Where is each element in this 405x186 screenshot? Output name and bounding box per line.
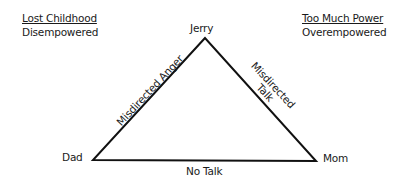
node-jerry-label: Jerry [190,22,213,34]
annotation-right-heading: Too Much Power [302,12,383,24]
node-mom-label: Mom [323,152,348,164]
annotation-left-heading: Lost Childhood [22,12,97,24]
node-dad-label: Dad [62,151,83,163]
annotation-left-subheading: Disempowered [22,26,98,38]
annotation-right-subheading: Overempowered [302,26,386,38]
edge-bottom-label: No Talk [186,165,222,177]
